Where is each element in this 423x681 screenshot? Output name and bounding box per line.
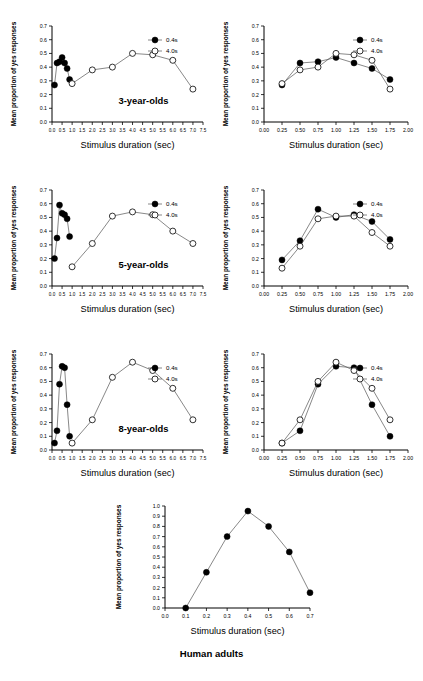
- data-point-filled: [54, 235, 60, 241]
- x-tick-label: 0.5: [59, 292, 66, 297]
- data-point-open: [130, 209, 136, 215]
- y-tick-label: 0.2: [40, 420, 47, 426]
- data-point-open: [109, 64, 115, 70]
- x-tick-label: 7.5: [200, 292, 207, 297]
- legend-label-filled: 0.4s: [166, 200, 178, 207]
- x-tick-label: 0.50: [295, 455, 305, 461]
- y-tick-label: 0.6: [252, 365, 259, 371]
- x-tick-label: 3.0: [109, 456, 116, 461]
- x-tick-label: 1.25: [349, 455, 359, 461]
- data-point-open: [315, 378, 321, 384]
- data-point-open: [351, 368, 357, 374]
- y-tick-label: 0.5: [252, 378, 259, 384]
- legend-label-open: 4.0s: [166, 211, 178, 218]
- y-tick-label: 0.7: [153, 534, 160, 540]
- legend-label-open: 4.0s: [371, 211, 383, 218]
- data-point-open: [89, 241, 95, 247]
- data-point-open: [69, 264, 75, 270]
- x-tick-label: 3.5: [119, 128, 126, 133]
- x-tick-label: 5.5: [160, 456, 167, 461]
- x-tick-label: 6.0: [170, 456, 177, 461]
- legend-label-filled: 0.4s: [371, 364, 383, 371]
- y-tick-label: 0.4: [252, 228, 259, 234]
- data-point-filled: [64, 66, 70, 72]
- y-tick-label: 0.6: [252, 201, 259, 207]
- data-point-open: [369, 385, 375, 391]
- data-point-open: [297, 417, 303, 423]
- x-tick-label: 2.0: [89, 128, 96, 133]
- y-tick-label: 0.1: [252, 105, 259, 111]
- x-tick-label: 7.5: [200, 128, 207, 133]
- x-tick-label: 4.0: [129, 456, 136, 461]
- plot-axes: [52, 354, 203, 450]
- x-tick-label: 1.25: [349, 291, 359, 297]
- data-point-filled: [52, 440, 58, 446]
- y-tick-label: 0.4: [40, 392, 47, 398]
- x-tick-label: 0.1: [182, 613, 189, 619]
- y-tick-label: 0.6: [40, 365, 47, 371]
- x-tick-label: 0.75: [313, 455, 323, 461]
- y-axis-label: Mean proportion of yes responses: [10, 349, 18, 454]
- data-point-open: [130, 359, 136, 365]
- data-point-open: [109, 374, 115, 380]
- x-axis-label: Stimulus duration (sec): [289, 140, 383, 150]
- x-tick-label: 2.5: [99, 292, 106, 297]
- x-tick-label: 4.5: [139, 456, 146, 461]
- x-tick-label: 7.0: [190, 292, 197, 297]
- y-tick-label: 0.1: [40, 433, 47, 439]
- x-tick-label: 0.75: [313, 291, 323, 297]
- y-tick-label: 0.6: [252, 37, 259, 43]
- y-tick-label: 0.8: [153, 523, 160, 529]
- x-tick-label: 1.75: [385, 455, 395, 461]
- x-tick-label: 0.50: [295, 127, 305, 133]
- y-axis-label: Mean proportion of yes responses: [115, 504, 123, 609]
- x-tick-label: 6.5: [180, 292, 187, 297]
- x-tick-label: 0.4: [244, 613, 251, 619]
- plot-axes: [165, 506, 310, 608]
- y-tick-label: 0.4: [252, 64, 259, 70]
- x-tick-label: 0.50: [295, 291, 305, 297]
- data-point-filled: [387, 433, 393, 439]
- panel-8yo-fine: 0.00.10.20.30.40.50.60.7Mean proportion …: [212, 332, 423, 496]
- x-tick-label: 0.00: [259, 455, 269, 461]
- data-point-open: [387, 417, 393, 423]
- data-point-open: [315, 216, 321, 222]
- x-tick-label: 0.0: [161, 613, 168, 619]
- y-tick-label: 0.2: [153, 585, 160, 591]
- data-point-filled: [369, 402, 375, 408]
- y-tick-label: 0.7: [252, 351, 259, 357]
- data-point-open: [109, 213, 115, 219]
- legend-label-open: 4.0s: [371, 375, 383, 382]
- data-point-open: [89, 67, 95, 73]
- data-point-filled: [64, 402, 70, 408]
- data-point-open: [190, 417, 196, 423]
- x-tick-label: 0.75: [313, 127, 323, 133]
- y-tick-label: 0.1: [153, 595, 160, 601]
- plot-axes: [264, 26, 408, 122]
- data-point-open: [89, 417, 95, 423]
- x-tick-label: 4.0: [129, 128, 136, 133]
- y-tick-label: 0.6: [153, 544, 160, 550]
- x-tick-label: 1.0: [69, 128, 76, 133]
- x-axis-label: Stimulus duration (sec): [81, 304, 175, 314]
- y-tick-label: 0.3: [40, 242, 47, 248]
- x-tick-label: 5.0: [149, 128, 156, 133]
- y-axis-label: Mean proportion of yes responses: [222, 349, 230, 454]
- legend-marker-open: [357, 212, 363, 218]
- data-point-filled: [67, 433, 73, 439]
- x-tick-label: 3.5: [119, 292, 126, 297]
- x-tick-label: 6.0: [170, 292, 177, 297]
- data-point-open: [190, 241, 196, 247]
- legend-label-filled: 0.4s: [166, 36, 178, 43]
- x-axis-label: Stimulus duration (sec): [191, 626, 285, 636]
- x-tick-label: 0.7: [306, 613, 313, 619]
- data-point-open: [279, 81, 285, 87]
- x-tick-label: 0.0: [49, 128, 56, 133]
- y-tick-label: 0.5: [252, 214, 259, 220]
- group-label: 3-year-olds: [118, 95, 168, 106]
- x-tick-label: 2.00: [403, 127, 413, 133]
- y-tick-label: 0.1: [40, 105, 47, 111]
- x-tick-label: 1.0: [69, 292, 76, 297]
- data-point-open: [333, 50, 339, 56]
- legend-marker-filled: [152, 365, 158, 371]
